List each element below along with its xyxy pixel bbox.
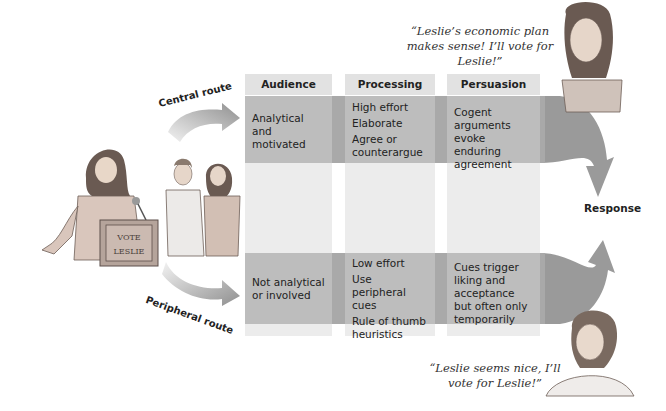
peripheral-listener-illustration (0, 0, 666, 411)
